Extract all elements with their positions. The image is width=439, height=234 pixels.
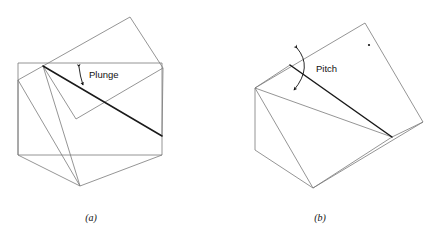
strike-line-b xyxy=(255,65,290,88)
caption-b: (b) xyxy=(314,212,326,224)
block-bottom-edge-a xyxy=(80,155,162,186)
block-front-diagonal-b xyxy=(255,88,313,188)
block-bottom-edge-b xyxy=(313,122,423,188)
panel-a-group: Plunge (a) xyxy=(18,17,163,224)
plane-reference-dot-b xyxy=(368,44,370,46)
block-top-left-edge-a xyxy=(18,66,43,80)
caption-a: (a) xyxy=(85,212,97,224)
panel-b-group: Pitch (b) xyxy=(255,23,423,224)
inclined-top-face-b xyxy=(255,23,423,137)
pitch-label: Pitch xyxy=(316,63,337,74)
plunge-label: Plunge xyxy=(89,69,119,80)
plunge-angle-arc xyxy=(79,67,83,85)
tilted-plane-a xyxy=(43,17,163,119)
lineation-line-b xyxy=(290,65,392,137)
block-right-vertical-b xyxy=(313,137,392,188)
figure-container: Plunge (a) Pitch (b) xyxy=(0,0,439,234)
geology-block-diagram-figure: Plunge (a) Pitch (b) xyxy=(0,0,439,234)
